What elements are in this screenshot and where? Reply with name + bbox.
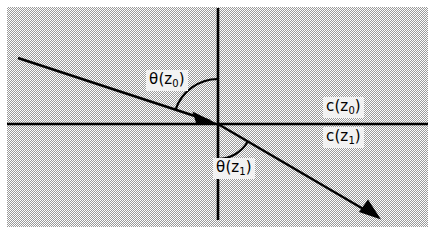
- refraction-diagram: θ(z0) θ(z1) c(z0) c(z1): [0, 0, 435, 234]
- diagram-panel: [7, 7, 428, 227]
- label-c-z1-close: ): [355, 127, 361, 145]
- label-theta-z1: θ(z1): [213, 158, 255, 179]
- label-c-z1: c(z1): [323, 127, 364, 148]
- label-theta-z0-symbol: θ: [149, 70, 158, 88]
- label-theta-z1-close: ): [246, 158, 252, 176]
- label-theta-z1-symbol: θ: [216, 158, 225, 176]
- label-theta-z0-close: ): [179, 70, 185, 88]
- label-theta-z0: θ(z0): [146, 70, 188, 91]
- label-c-z0: c(z0): [323, 97, 364, 118]
- label-c-z0-close: ): [355, 97, 361, 115]
